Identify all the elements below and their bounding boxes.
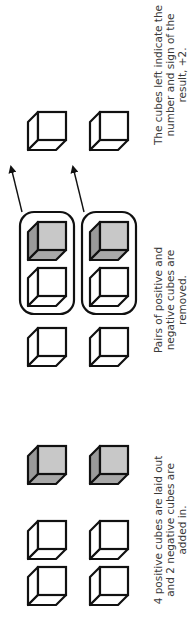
positive-cube bbox=[28, 328, 66, 366]
cube-front-face bbox=[38, 567, 66, 595]
cube-front-face bbox=[100, 328, 128, 356]
cube-front-face bbox=[38, 521, 66, 549]
cube-front-face bbox=[38, 112, 66, 140]
cube-front-face bbox=[100, 112, 128, 140]
caption-step2-line1: Pairs of positive and bbox=[152, 247, 164, 353]
positive-cube bbox=[90, 268, 128, 306]
arrows bbox=[11, 167, 84, 212]
positive-cube bbox=[90, 521, 128, 559]
result-positive-cube bbox=[28, 112, 66, 150]
positive-cube bbox=[28, 567, 66, 605]
result-positive-cube bbox=[90, 112, 128, 150]
negative-cube bbox=[28, 446, 66, 484]
caption-step3-line2: number and sign of the bbox=[164, 13, 176, 136]
positive-cube bbox=[90, 328, 128, 366]
cube-front-face bbox=[100, 567, 128, 595]
arrow bbox=[73, 167, 84, 212]
negative-cube bbox=[90, 222, 128, 260]
positive-cube bbox=[90, 567, 128, 605]
positive-cube bbox=[28, 268, 66, 306]
cube-front-face bbox=[38, 268, 66, 296]
caption-step1-line2: and 2 negative cubes are bbox=[164, 463, 176, 597]
positive-cube bbox=[28, 521, 66, 559]
caption-step3: The cubes left indicate the number and s… bbox=[152, 5, 188, 146]
negative-cube bbox=[90, 446, 128, 484]
caption-step2-line3: removed. bbox=[176, 275, 188, 325]
negative-cube bbox=[28, 222, 66, 260]
caption-step1-line3: added in. bbox=[176, 505, 188, 554]
arrow bbox=[11, 167, 22, 212]
cube-front-face bbox=[38, 446, 66, 474]
integer-cube-diagram: 4 positive cubes are laid out and 2 nega… bbox=[0, 0, 193, 630]
caption-step3-line1: The cubes left indicate the bbox=[152, 5, 164, 146]
cube-front-face bbox=[100, 446, 128, 474]
caption-step1: 4 positive cubes are laid out and 2 nega… bbox=[152, 456, 188, 605]
cube-front-face bbox=[100, 521, 128, 549]
caption-step2-line2: negative cubes are bbox=[164, 250, 176, 351]
cube-front-face bbox=[38, 222, 66, 250]
caption-step1-line1: 4 positive cubes are laid out bbox=[152, 456, 164, 605]
caption-step2: Pairs of positive and negative cubes are… bbox=[152, 247, 188, 353]
cube-front-face bbox=[38, 328, 66, 356]
cube-front-face bbox=[100, 222, 128, 250]
caption-step3-line3: result, +2. bbox=[176, 47, 188, 102]
cube-front-face bbox=[100, 268, 128, 296]
